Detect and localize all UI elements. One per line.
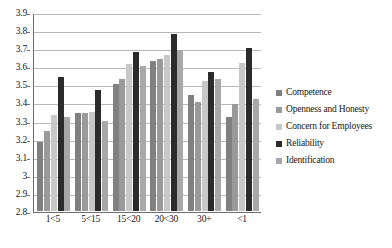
x-axis-tick-label: 20<30 [147, 215, 185, 225]
legend-item[interactable]: Identification [276, 152, 390, 169]
legend-label: Identification [286, 156, 334, 166]
bar [51, 115, 57, 211]
bar [140, 66, 146, 211]
y-axis-tick-label: 3.3 [16, 118, 27, 128]
legend-label: Concern for Employees [286, 122, 372, 132]
legend-label: Openness and Honesty [286, 105, 369, 115]
y-axis-tick-mark [27, 86, 30, 87]
legend-swatch-icon [276, 124, 282, 130]
bar [171, 34, 177, 211]
bar [58, 77, 64, 211]
bar [215, 79, 221, 211]
y-axis-tick-label: 3.1 [16, 154, 27, 164]
bar [208, 72, 214, 211]
legend-label: Competence [286, 88, 331, 98]
bar [232, 104, 238, 211]
bar [64, 117, 70, 211]
y-axis-tick-label: 3.6 [16, 64, 27, 74]
x-axis-tick-labels: 1<55<1515<2020<3030+<1 [34, 215, 261, 225]
y-axis-tick-mark [27, 159, 30, 160]
bar [150, 61, 156, 211]
bar [246, 48, 252, 211]
x-axis-tick-label: 1<5 [34, 215, 72, 225]
y-axis-tick-mark [27, 195, 30, 196]
y-axis-tick-label: 3.9 [16, 9, 27, 19]
bar-group [186, 14, 224, 211]
x-axis-tick-label: 30+ [185, 215, 223, 225]
bar [239, 63, 245, 211]
y-axis-tick-label: 3.8 [16, 27, 27, 37]
bar [102, 121, 108, 211]
legend-item[interactable]: Competence [276, 84, 390, 101]
bar [188, 95, 194, 211]
y-axis-tick-label: 2.8 [16, 208, 27, 218]
bar [82, 113, 88, 211]
legend-item[interactable]: Openness and Honesty [276, 101, 390, 118]
bar-group [223, 14, 261, 211]
bar [253, 99, 259, 211]
y-axis-tick-mark [27, 104, 30, 105]
bar-group [35, 14, 73, 211]
plot-area [33, 14, 261, 213]
bar-group [73, 14, 111, 211]
legend-swatch-icon [276, 107, 282, 113]
y-axis-tick-labels: 3.93.83.73.63.53.43.33.23.132.92.8 [0, 14, 30, 213]
bar [164, 55, 170, 211]
bar [44, 131, 50, 211]
y-axis-tick-mark [27, 177, 30, 178]
bar [226, 117, 232, 211]
legend-swatch-icon [276, 90, 282, 96]
y-axis-tick-mark [27, 14, 30, 15]
bar [37, 142, 43, 211]
legend-label: Reliability [286, 139, 324, 149]
y-axis-tick-mark [27, 213, 30, 214]
bar-group [148, 14, 186, 211]
bar [75, 113, 81, 211]
bar [119, 79, 125, 211]
y-axis-tick-label: 2.9 [16, 190, 27, 200]
x-axis-tick-label: 5<15 [72, 215, 110, 225]
bar-group [110, 14, 148, 211]
bar [177, 50, 183, 211]
y-axis-tick-mark [27, 123, 30, 124]
bar [95, 90, 101, 211]
bar [133, 52, 139, 211]
legend-swatch-icon [276, 141, 282, 147]
y-axis-tick-label: 3.4 [16, 100, 27, 110]
bar [195, 102, 201, 211]
y-axis-tick-label: 3.2 [16, 136, 27, 146]
bar [113, 84, 119, 211]
bar-chart: 3.93.83.73.63.53.43.33.23.132.92.8 1<55<… [0, 0, 392, 248]
x-axis-tick-label: 15<20 [110, 215, 148, 225]
legend-swatch-icon [276, 158, 282, 164]
legend-item[interactable]: Reliability [276, 135, 390, 152]
x-axis-tick-label: <1 [223, 215, 261, 225]
y-axis-tick-mark [27, 50, 30, 51]
bar-groups [35, 14, 261, 211]
y-axis-tick-mark [27, 68, 30, 69]
legend-item[interactable]: Concern for Employees [276, 118, 390, 135]
bar [202, 81, 208, 211]
y-axis-tick-mark [27, 141, 30, 142]
bar [126, 64, 132, 211]
y-axis-tick-label: 3.5 [16, 82, 27, 92]
y-axis-tick-label: 3.7 [16, 45, 27, 55]
bar [89, 112, 95, 212]
bar [157, 59, 163, 211]
y-axis-tick-mark [27, 32, 30, 33]
legend: CompetenceOpenness and HonestyConcern fo… [276, 84, 390, 169]
